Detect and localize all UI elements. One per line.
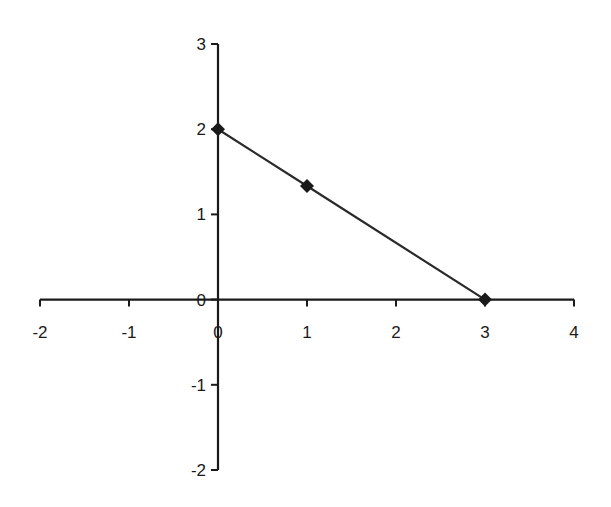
y-tick-label: -1 <box>191 376 206 395</box>
line-chart: -2-101234 -2-10123 <box>0 0 611 507</box>
x-tick-label: 1 <box>302 323 311 342</box>
axes <box>40 44 574 470</box>
data-series <box>211 122 492 306</box>
series-line <box>218 129 485 299</box>
y-tick-label: 1 <box>197 205 206 224</box>
diamond-marker <box>211 122 225 136</box>
x-tick-label: 0 <box>213 323 222 342</box>
x-tick-label: 3 <box>480 323 489 342</box>
x-axis-ticks: -2-101234 <box>32 300 578 342</box>
x-tick-label: -1 <box>121 323 136 342</box>
diamond-marker <box>300 179 314 193</box>
y-axis-ticks: -2-10123 <box>191 35 218 480</box>
x-tick-label: 4 <box>569 323 578 342</box>
x-tick-label: -2 <box>32 323 47 342</box>
x-tick-label: 2 <box>391 323 400 342</box>
y-tick-label: 0 <box>197 291 206 310</box>
diamond-marker <box>478 293 492 307</box>
y-tick-label: 3 <box>197 35 206 54</box>
y-tick-label: -2 <box>191 461 206 480</box>
y-tick-label: 2 <box>197 120 206 139</box>
